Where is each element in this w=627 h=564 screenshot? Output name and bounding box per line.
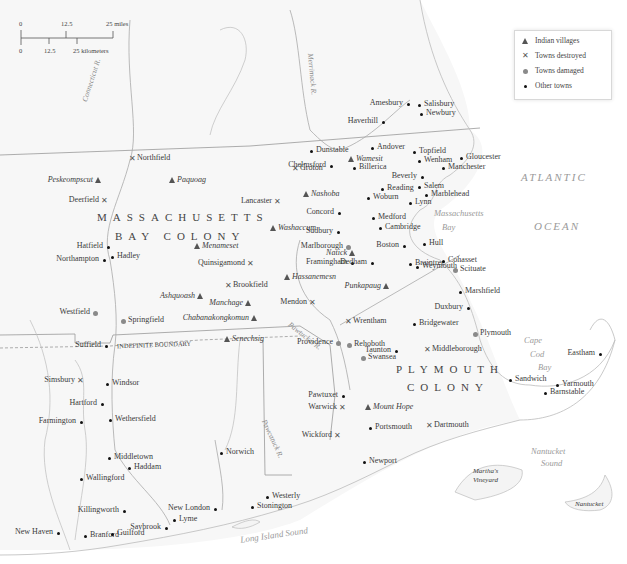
town-destroyed-icon: ✕ [339, 404, 346, 412]
place-label: Swansea [368, 353, 396, 361]
town-icon [84, 535, 87, 538]
town-destroyed-icon: ✕ [424, 346, 431, 354]
place-label: Farmington [39, 417, 76, 425]
place-label: Taunton [365, 346, 391, 354]
place-label: Gloucester [466, 153, 501, 161]
place-label: Lynn [415, 198, 431, 206]
town-icon [395, 350, 398, 353]
town-icon [369, 427, 372, 430]
town-icon [403, 245, 406, 248]
nantucket-sound-label-2: Sound [541, 458, 562, 468]
town-icon [459, 291, 462, 294]
place-label: Marlborough [301, 242, 343, 250]
place-label: Portsmouth [375, 423, 412, 431]
town-destroyed-icon: ✕ [77, 377, 84, 385]
place-label: Middleborough [432, 345, 482, 353]
place-label: Manchage [209, 299, 243, 307]
town-icon [220, 452, 223, 455]
region-colony: COLONY [407, 381, 489, 393]
town-icon [416, 266, 419, 269]
place-label: Middletown [114, 453, 153, 461]
scale-miles-0: 0 [19, 20, 22, 27]
indian-village-icon [349, 250, 355, 256]
town-icon [413, 323, 416, 326]
place-label: Concord [306, 208, 334, 216]
place-label: Hartford [69, 399, 97, 407]
place-label: Northfield [137, 154, 170, 162]
place-label: Barnstable [550, 388, 584, 396]
place-label: Killingworth [78, 506, 119, 514]
place-label: Cambridge [385, 223, 421, 231]
nantucket-label: Nantucket [575, 501, 603, 508]
town-icon [107, 246, 110, 249]
black-dot-icon [524, 85, 527, 88]
town-icon [363, 461, 366, 464]
town-icon [544, 392, 547, 395]
town-icon [460, 157, 463, 160]
indian-village-icon [169, 177, 175, 183]
town-icon [338, 212, 341, 215]
town-damaged-icon [347, 343, 352, 348]
scale-bar: 0 12.5 25 miles 0 12.5 25 kilometers [0, 0, 160, 70]
place-label: Beverly [392, 172, 417, 180]
town-icon [80, 421, 83, 424]
place-label: Amesbury [370, 99, 403, 107]
place-label: Medford [378, 213, 406, 221]
indian-village-icon [194, 243, 200, 249]
place-label: Dedham [340, 258, 367, 266]
town-icon [310, 150, 313, 153]
legend-item-towns-damaged: Towns damaged [521, 66, 584, 75]
x-mark-icon: ✕ [522, 52, 529, 60]
place-label: Hull [429, 239, 443, 247]
mass-bay-label-2: Bay [442, 222, 455, 232]
place-label: Ashquoash [160, 292, 195, 300]
place-label: Simsbury [44, 376, 75, 384]
town-icon [418, 104, 421, 107]
town-destroyed-icon: ✕ [225, 282, 232, 290]
place-label: Mount Hope [373, 403, 413, 411]
town-icon [418, 160, 421, 163]
indian-village-icon [365, 404, 371, 410]
indian-village-icon [95, 177, 101, 183]
place-label: Chelmsford [288, 161, 326, 169]
place-label: Hadley [117, 252, 140, 260]
town-icon [371, 262, 374, 265]
place-label: Lancaster [241, 197, 272, 205]
place-label: Natick [326, 249, 347, 257]
scale-bar-lines [0, 0, 160, 70]
place-label: Billerica [359, 163, 387, 171]
indian-village-icon [224, 336, 230, 342]
town-icon [111, 256, 114, 259]
town-icon [103, 259, 106, 262]
place-label: Suffield [75, 341, 101, 349]
marthas-vineyard-label-1: Martha's [473, 468, 498, 475]
town-icon [381, 188, 384, 191]
town-destroyed-icon: ✕ [334, 432, 341, 440]
place-label: Westfield [60, 308, 90, 316]
town-damaged-icon [93, 311, 98, 316]
place-label: Boston [376, 241, 399, 249]
town-icon [123, 510, 126, 513]
town-icon [509, 379, 512, 382]
town-icon [371, 147, 374, 150]
place-label: Andover [377, 143, 405, 151]
town-icon [128, 467, 131, 470]
town-icon [111, 533, 114, 536]
town-icon [379, 227, 382, 230]
town-icon [599, 353, 602, 356]
town-icon [353, 167, 356, 170]
town-icon [407, 103, 410, 106]
place-label: Quinsigamond [198, 259, 245, 267]
coastal-shading [0, 0, 520, 550]
place-label: Haddam [134, 463, 161, 471]
cape-cod-bay-label-3: Bay [538, 362, 551, 372]
town-icon [108, 457, 111, 460]
town-icon [372, 217, 375, 220]
place-label: Dunstable [316, 146, 348, 154]
town-icon [421, 176, 424, 179]
place-label: Scituate [460, 265, 486, 273]
mass-bay-label-1: Massachusetts [434, 208, 484, 218]
place-label: Cohasset [448, 256, 477, 264]
place-label: New London [168, 504, 210, 512]
town-icon [214, 508, 217, 511]
